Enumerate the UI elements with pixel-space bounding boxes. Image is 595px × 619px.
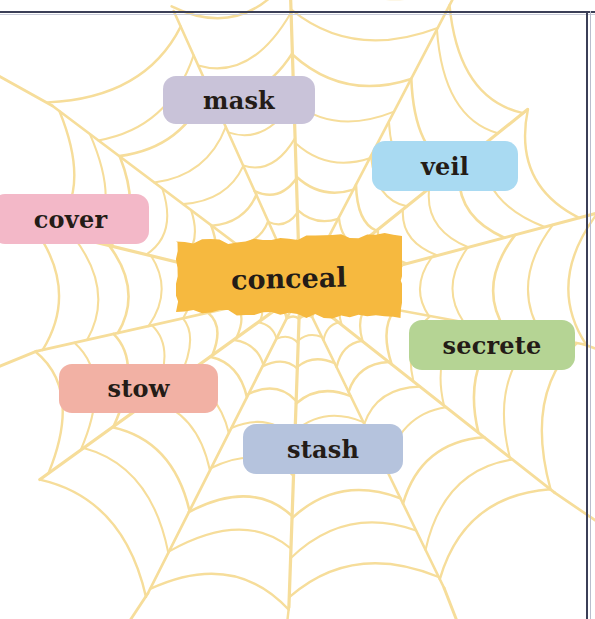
word-pill-label: mask: [203, 86, 275, 115]
word-pill-veil[interactable]: veil: [372, 141, 518, 191]
word-pill-stow[interactable]: stow: [59, 364, 218, 413]
word-pill-label: cover: [34, 205, 107, 234]
word-pill-label: stow: [107, 374, 169, 403]
page-frame-right-hairline: [590, 11, 591, 619]
word-pill-label: veil: [421, 152, 469, 181]
page-frame-top-rule: [0, 11, 595, 13]
word-pill-cover[interactable]: cover: [0, 194, 149, 244]
word-pill-label: secrete: [442, 331, 541, 360]
center-word-conceal[interactable]: conceal: [176, 233, 402, 323]
center-word-label: conceal: [231, 261, 347, 295]
word-pill-secrete[interactable]: secrete: [409, 320, 575, 370]
word-pill-mask[interactable]: mask: [163, 76, 315, 124]
word-pill-label: stash: [287, 435, 359, 464]
word-pill-stash[interactable]: stash: [243, 424, 403, 474]
page-frame-right-rule: [586, 11, 588, 619]
page-frame-top-hairline: [0, 14, 595, 15]
figure-canvas: conceal mask veil cover secrete stow sta…: [0, 0, 595, 619]
